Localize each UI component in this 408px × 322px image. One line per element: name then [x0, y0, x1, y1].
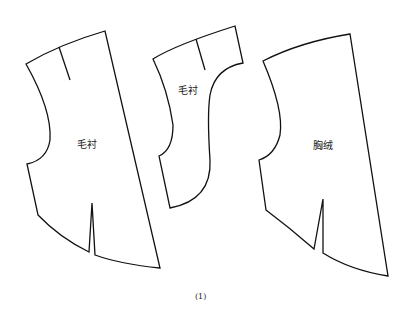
- pattern-diagram: [0, 0, 408, 322]
- piece-label-middle: 毛衬: [178, 82, 198, 97]
- piece-label-right: 胸绒: [313, 137, 333, 152]
- pattern-piece-right: [259, 34, 388, 276]
- figure-caption: (1): [195, 292, 206, 301]
- piece-label-left: 毛衬: [77, 136, 97, 151]
- pattern-piece-middle: [153, 26, 243, 208]
